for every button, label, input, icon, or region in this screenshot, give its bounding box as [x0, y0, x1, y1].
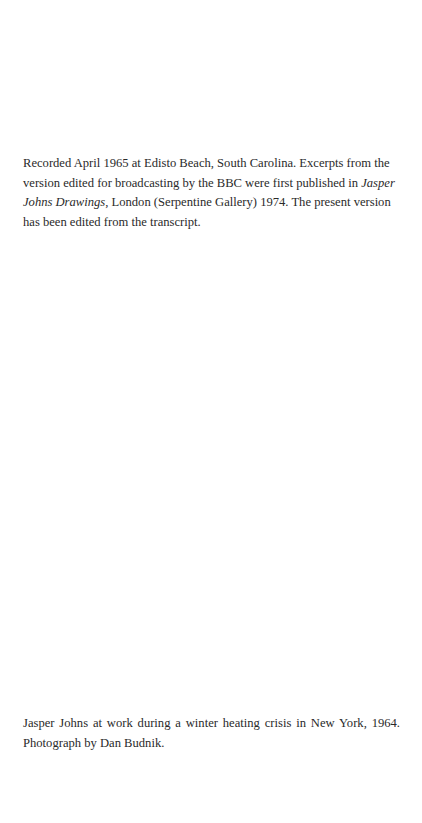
photo-caption: Jasper Johns at work during a winter hea…: [23, 714, 400, 753]
caption-line-1: Jasper Johns at work during a winter hea…: [23, 714, 400, 734]
source-note: Recorded April 1965 at Edisto Beach, Sou…: [23, 154, 400, 232]
caption-line-2: Photograph by Dan Budnik.: [23, 736, 164, 750]
source-note-text: Recorded April 1965 at Edisto Beach, Sou…: [23, 156, 390, 190]
